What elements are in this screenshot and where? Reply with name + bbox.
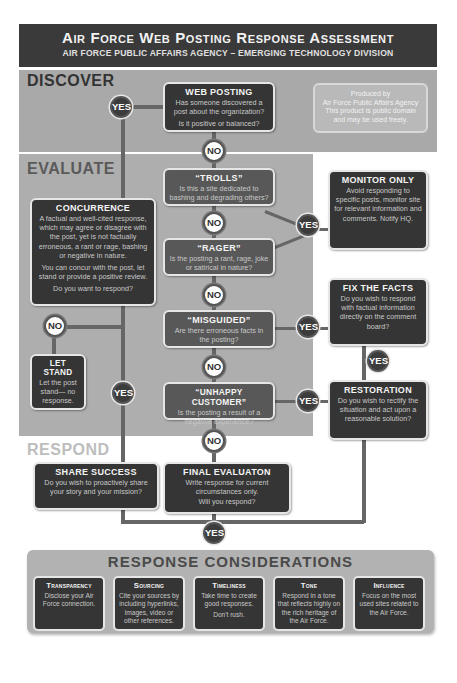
- no-badge: NO: [203, 356, 225, 378]
- node-misguided: “MISGUIDED” Are there erroneous facts in…: [163, 310, 275, 348]
- node-title: LET STAND: [36, 359, 80, 377]
- no-badge: NO: [44, 315, 66, 337]
- node-restoration: RESTORATION Do you wish to rectify the s…: [328, 380, 428, 440]
- consideration-tone: Tone Respond in a tone that reflects hig…: [273, 576, 345, 631]
- node-let-stand: LET STAND Let the post stand— no respons…: [30, 354, 86, 410]
- consideration-title: Transparency: [37, 581, 101, 590]
- node-desc: Is the posting a rant, rage, joke or sat…: [169, 254, 269, 272]
- yes-badge: YES: [297, 316, 319, 338]
- node-fix-the-facts: FIX THE FACTS Do you wish to respond wit…: [328, 278, 428, 346]
- node-desc: Is this a site dedicated to bashing and …: [169, 184, 269, 202]
- node-title: “UNHAPPY CUSTOMER”: [169, 387, 269, 407]
- consideration-desc: Cite your sources by including hyperlink…: [117, 592, 181, 626]
- node-desc: Do you wish to respond with factual info…: [334, 294, 422, 331]
- consideration-timeliness: Timeliness Take time to create good resp…: [193, 576, 265, 631]
- yes-badge: YES: [297, 390, 319, 412]
- node-title: CONCURRENCE: [36, 203, 150, 213]
- node-desc: Let the post stand— no response.: [36, 378, 80, 406]
- header-banner: Air Force Web Posting Response Assessmen…: [19, 24, 437, 67]
- node-trolls: “TROLLS” Is this a site dedicated to bas…: [163, 168, 275, 206]
- note-line: and may be used freely.: [315, 116, 426, 125]
- node-desc: Do you wish to rectify the situation and…: [334, 396, 422, 424]
- node-concurrence: CONCURRENCE A factual and well-cited res…: [30, 198, 156, 306]
- node-title: WEB POSTING: [169, 87, 269, 97]
- page-subtitle: AIR FORCE PUBLIC AFFAIRS AGENCY – EMERGI…: [19, 48, 437, 58]
- node-desc-line: Has someone discovered a post about the …: [169, 98, 269, 116]
- note-line: This product is public domain: [315, 107, 426, 116]
- section-title-respond: RESPOND: [27, 441, 110, 459]
- no-badge: NO: [203, 140, 225, 162]
- node-desc: Avoid responding to specific posts, moni…: [334, 186, 422, 223]
- node-title: “MISGUIDED”: [169, 315, 269, 325]
- node-desc-line: Will you respond?: [169, 497, 285, 506]
- node-desc: Is the posting a result of a negative ex…: [169, 408, 269, 426]
- consideration-desc: Take time to create good responses.: [197, 592, 261, 609]
- node-desc-line: Is it positive or balanced?: [169, 119, 269, 128]
- node-title: “RAGER”: [169, 243, 269, 253]
- node-final-evaluation: FINAL EVALUATON Write response for curre…: [163, 462, 291, 514]
- node-monitor-only: MONITOR ONLY Avoid responding to specifi…: [328, 170, 428, 250]
- node-desc-line: You can concur with the post, let stand …: [36, 263, 150, 281]
- node-share-success: SHARE SUCCESS Do you wish to proactively…: [33, 462, 159, 510]
- node-title: MONITOR ONLY: [334, 175, 422, 185]
- no-badge: NO: [203, 430, 225, 452]
- node-title: FIX THE FACTS: [334, 283, 422, 293]
- connector-line: [121, 105, 125, 523]
- consideration-title: Timeliness: [197, 581, 261, 590]
- consideration-title: Influence: [357, 581, 421, 590]
- response-considerations-title: RESPONSE CONSIDERATIONS: [27, 553, 434, 570]
- consideration-desc: Disclose your Air Force connection.: [37, 592, 101, 609]
- node-desc: A factual and well-cited response, which…: [36, 214, 150, 294]
- yes-badge: YES: [110, 96, 132, 118]
- connector-line: [121, 520, 364, 524]
- consideration-desc: Focus on the most used sites related to …: [357, 592, 421, 617]
- no-badge: NO: [203, 284, 225, 306]
- consideration-sourcing: Sourcing Cite your sources by including …: [113, 576, 185, 631]
- consideration-transparency: Transparency Disclose your Air Force con…: [33, 576, 105, 631]
- yes-badge: YES: [203, 522, 225, 544]
- yes-badge: YES: [367, 350, 389, 372]
- consideration-desc: Don't rush.: [197, 611, 261, 619]
- node-desc-line: Write response for current circumstances…: [169, 478, 285, 496]
- node-desc: Do you wish to proactively share your st…: [39, 478, 153, 496]
- node-desc: Write response for current circumstances…: [169, 478, 285, 507]
- node-desc-line: Do you want to respond?: [36, 284, 150, 293]
- node-web-posting: WEB POSTING Has someone discovered a pos…: [163, 82, 275, 132]
- consideration-influence: Influence Focus on the most used sites r…: [353, 576, 425, 631]
- consideration-title: Tone: [277, 581, 341, 590]
- consideration-desc: Respond in a tone that reflects highly o…: [277, 592, 341, 626]
- note-line: Air Force Public Affairs Agency: [315, 99, 426, 108]
- node-title: RESTORATION: [334, 385, 422, 395]
- consideration-title: Sourcing: [117, 581, 181, 590]
- node-rager: “RAGER” Is the posting a rant, rage, jok…: [163, 238, 275, 276]
- node-title: “TROLLS”: [169, 173, 269, 183]
- node-desc: Has someone discovered a post about the …: [169, 98, 269, 129]
- yes-badge: YES: [112, 382, 134, 404]
- node-title: FINAL EVALUATON: [169, 467, 285, 477]
- yes-badge: YES: [297, 214, 319, 236]
- attribution-note: Produced by Air Force Public Affairs Age…: [313, 83, 428, 133]
- no-badge: NO: [203, 212, 225, 234]
- note-line: Produced by: [315, 90, 426, 99]
- node-unhappy-customer: “UNHAPPY CUSTOMER” Is the posting a resu…: [163, 382, 275, 420]
- node-desc: Are there erroneous facts in the posting…: [169, 326, 269, 344]
- node-desc-line: A factual and well-cited response, which…: [36, 214, 150, 260]
- section-title-evaluate: EVALUATE: [27, 160, 115, 178]
- page-title: Air Force Web Posting Response Assessmen…: [19, 29, 437, 46]
- section-title-discover: DISCOVER: [27, 72, 115, 90]
- node-title: SHARE SUCCESS: [39, 467, 153, 477]
